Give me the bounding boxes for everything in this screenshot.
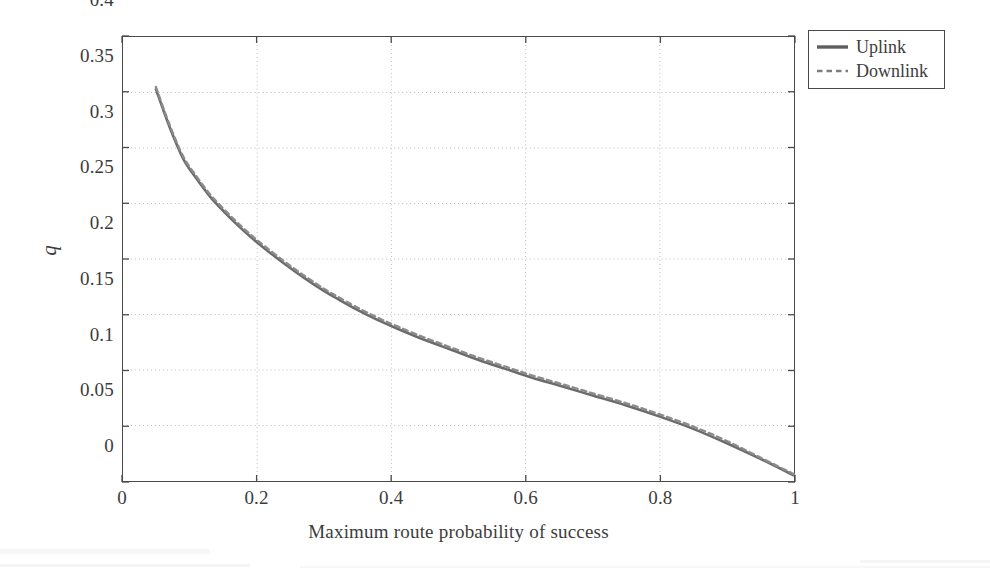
- legend-label-downlink: Downlink: [856, 62, 928, 80]
- scan-artifact-band: [300, 566, 990, 568]
- legend-line-dashed-icon: [816, 65, 849, 77]
- x-tick-label: 0: [117, 488, 127, 507]
- legend-label-uplink: Uplink: [856, 38, 906, 56]
- x-tick-label: 0.8: [648, 488, 672, 507]
- x-tick-label: 0.4: [379, 488, 403, 507]
- scan-artifact-band: [860, 560, 990, 563]
- x-tick-label: 0.6: [514, 488, 538, 507]
- legend-box: Uplink Downlink: [808, 30, 945, 89]
- x-axis-title: Maximum route probability of success: [122, 521, 795, 543]
- x-axis-tick-labels: 00.20.40.60.81: [122, 488, 795, 518]
- scan-artifact-band: [0, 549, 210, 554]
- x-tick-label: 1: [790, 488, 800, 507]
- legend-line-solid-icon: [816, 41, 849, 53]
- figure-canvas: 00.050.10.150.20.250.30.350.4 q 00.20.40…: [0, 0, 990, 578]
- legend-item-downlink[interactable]: Downlink: [816, 59, 937, 83]
- legend-item-uplink[interactable]: Uplink: [816, 35, 937, 59]
- scan-artifact-band: [0, 564, 250, 567]
- x-tick-label: 0.2: [244, 488, 268, 507]
